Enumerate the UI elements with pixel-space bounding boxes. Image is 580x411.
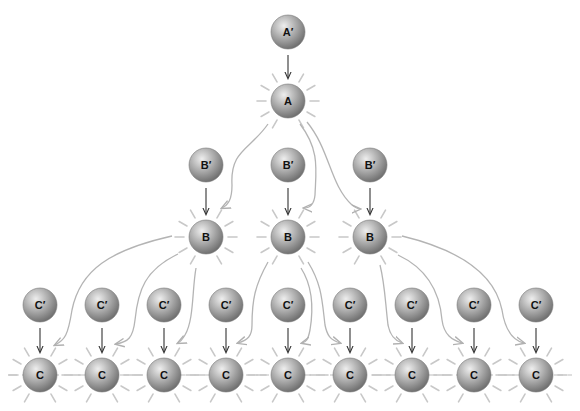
activation-arrow — [402, 236, 524, 343]
node-label: B′ — [201, 159, 212, 171]
node-c-prime: C′ — [85, 288, 119, 322]
node-c: C — [271, 358, 305, 392]
node-label: C′ — [97, 299, 108, 311]
node-label: C′ — [345, 299, 356, 311]
node-c-prime: C′ — [147, 288, 181, 322]
node-label: B — [284, 231, 292, 243]
node-b-prime: B′ — [189, 148, 223, 182]
node-label: C — [470, 369, 478, 381]
node-c-prime: C′ — [271, 288, 305, 322]
node-c-prime: C′ — [395, 288, 429, 322]
node-label: C — [222, 369, 230, 381]
cascade-diagram-canvas: A′AB′B′B′BBBC′C′C′C′C′C′C′C′C′CCCCCCCCC — [0, 0, 580, 411]
node-a-prime: A′ — [271, 15, 305, 49]
node-label: C′ — [35, 299, 46, 311]
node-label: C′ — [469, 299, 480, 311]
node-label: B — [202, 231, 210, 243]
node-b: B — [353, 220, 387, 254]
node-b-prime: B′ — [353, 148, 387, 182]
cascade-diagram: A′AB′B′B′BBBC′C′C′C′C′C′C′C′C′CCCCCCCCC — [0, 0, 580, 411]
node-c-prime: C′ — [209, 288, 243, 322]
node-c: C — [85, 358, 119, 392]
node-a: A — [271, 84, 305, 118]
node-c: C — [23, 358, 57, 392]
node-label: C′ — [407, 299, 418, 311]
node-c: C — [519, 358, 553, 392]
node-c: C — [333, 358, 367, 392]
activation-arrow — [222, 124, 268, 208]
node-c-prime: C′ — [457, 288, 491, 322]
node-label: C — [346, 369, 354, 381]
node-label: C — [284, 369, 292, 381]
node-label: C′ — [283, 299, 294, 311]
node-label: C′ — [159, 299, 170, 311]
node-label: B′ — [283, 159, 294, 171]
node-b-prime: B′ — [271, 148, 305, 182]
node-c: C — [147, 358, 181, 392]
node-c-prime: C′ — [23, 288, 57, 322]
node-label: C′ — [531, 299, 542, 311]
node-label: A′ — [283, 26, 294, 38]
node-label: B — [366, 231, 374, 243]
node-c-prime: C′ — [519, 288, 553, 322]
node-label: C — [532, 369, 540, 381]
node-b: B — [271, 220, 305, 254]
node-label: A — [284, 95, 292, 107]
node-b: B — [189, 220, 223, 254]
node-label: C — [36, 369, 44, 381]
node-label: B′ — [365, 159, 376, 171]
node-c: C — [209, 358, 243, 392]
node-label: C — [98, 369, 106, 381]
node-c: C — [395, 358, 429, 392]
node-c: C — [457, 358, 491, 392]
node-label: C — [160, 369, 168, 381]
node-label: C′ — [221, 299, 232, 311]
node-label: C — [408, 369, 416, 381]
node-c-prime: C′ — [333, 288, 367, 322]
activation-arrow — [55, 236, 172, 345]
